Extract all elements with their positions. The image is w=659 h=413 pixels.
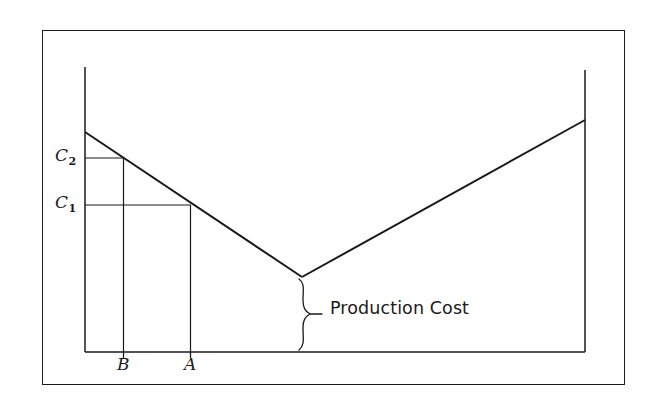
production-cost-brace [299, 279, 310, 350]
y-axis-label-c1-subscript: 1 [68, 202, 76, 215]
y-axis-label-c1-base: C [55, 192, 68, 212]
rising-cost-curve [302, 120, 585, 277]
y-axis-label-c2: C2 [55, 147, 76, 167]
y-axis-label-c2-base: C [55, 145, 68, 165]
figure-root: C2 C1 B A Production Cost [0, 0, 659, 413]
x-axis-label-a: A [184, 356, 196, 373]
y-axis-label-c1: C1 [55, 194, 76, 214]
y-axis-label-c2-subscript: 2 [68, 155, 76, 168]
x-axis-label-b: B [117, 356, 130, 373]
cost-curve-plot [0, 0, 659, 413]
production-cost-annotation-label: Production Cost [330, 300, 469, 318]
